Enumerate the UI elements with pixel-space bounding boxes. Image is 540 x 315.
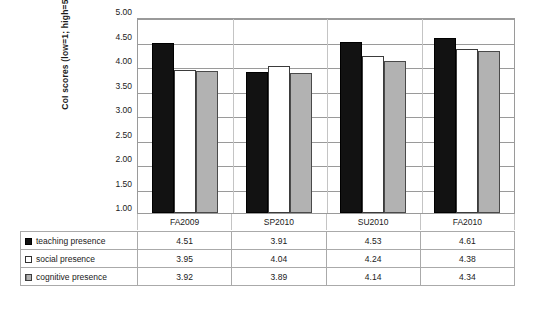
y-axis-title: CoI scores (low=1; high=5) [60,0,70,143]
y-axis-tick-labels: 5.00 4.50 4.00 3.50 3.00 2.50 2.00 1.50 … [96,12,132,220]
bar-chart-figure: CoI scores (low=1; high=5) 5.00 4.50 4.0… [0,0,540,315]
bar-social-presence[interactable] [456,49,478,213]
table-cell: 4.24 [326,250,420,268]
table-cell: 4.61 [420,232,514,250]
y-tick-label: 1.00 [96,204,132,213]
bar-social-presence[interactable] [362,56,384,213]
chart-data-table: teaching presence 4.51 3.91 4.53 4.61 so… [20,231,515,286]
bar-teaching-presence[interactable] [246,72,268,213]
table-cell: 4.34 [420,268,514,286]
x-axis-category-labels: FA2009 SP2010 SU2010 FA2010 [137,214,515,230]
filled-square-icon [25,238,32,245]
bar-cognitive-presence[interactable] [478,51,500,213]
table-cell: 4.51 [138,232,232,250]
table-cell: 4.38 [420,250,514,268]
y-tick-label: 4.00 [96,57,132,66]
legend-item-teaching-presence[interactable]: teaching presence [21,232,138,250]
legend-label: cognitive presence [36,272,107,282]
x-axis-label-fa2009: FA2009 [138,214,232,230]
plot-area [137,18,515,214]
bar-teaching-presence[interactable] [434,38,456,213]
bar-group-cat1 [232,19,326,213]
table-cell: 3.92 [138,268,232,286]
table-cell: 4.14 [326,268,420,286]
table-cell: 4.04 [232,250,326,268]
y-tick-label: 2.50 [96,131,132,140]
y-tick-label: 3.50 [96,82,132,91]
table-cell: 4.53 [326,232,420,250]
bar-cognitive-presence[interactable] [196,71,218,213]
x-axis-label-su2010: SU2010 [327,214,421,230]
bar-teaching-presence[interactable] [340,42,362,213]
table-cell: 3.89 [232,268,326,286]
table-row: social presence 3.95 4.04 4.24 4.38 [21,250,515,268]
legend-item-cognitive-presence[interactable]: cognitive presence [21,268,138,286]
bars-layer [138,19,514,213]
table-cell: 3.95 [138,250,232,268]
bar-group-cat3 [420,19,514,213]
y-tick-label: 4.50 [96,33,132,42]
bar-teaching-presence[interactable] [152,43,174,213]
legend-item-social-presence[interactable]: social presence [21,250,138,268]
bar-group-cat2 [326,19,420,213]
bar-cognitive-presence[interactable] [290,73,312,213]
y-tick-label: 5.00 [96,8,132,17]
x-axis-label-sp2010: SP2010 [232,214,326,230]
bar-cognitive-presence[interactable] [384,61,406,213]
bar-group-cat0 [138,19,232,213]
hatched-square-icon [25,274,32,281]
table-cell: 3.91 [232,232,326,250]
bar-social-presence[interactable] [174,70,196,213]
x-axis-label-fa2010: FA2010 [421,214,514,230]
bar-social-presence[interactable] [268,66,290,213]
table-row: cognitive presence 3.92 3.89 4.14 4.34 [21,268,515,286]
table-row: teaching presence 4.51 3.91 4.53 4.61 [21,232,515,250]
legend-label: teaching presence [36,236,105,246]
legend-label: social presence [36,254,95,264]
y-tick-label: 2.00 [96,155,132,164]
open-square-icon [25,256,32,263]
y-tick-label: 3.00 [96,106,132,115]
y-tick-label: 1.50 [96,180,132,189]
